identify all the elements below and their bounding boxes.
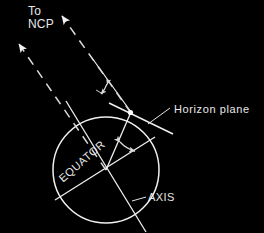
diagram-vector-layer [0, 0, 264, 233]
diagram-canvas: To NCP Horizon plane AXIS EQUATOR [0, 0, 264, 233]
axis-leader [132, 197, 146, 201]
observer-radius-line [106, 112, 131, 170]
axis-label: AXIS [148, 192, 175, 204]
observer-point [128, 110, 133, 115]
to-ncp-label: To NCP [28, 5, 54, 31]
latitude-angle-arc [120, 142, 135, 151]
horizon-plane-label: Horizon plane [174, 104, 250, 116]
horizon-plane-leader [148, 108, 170, 124]
